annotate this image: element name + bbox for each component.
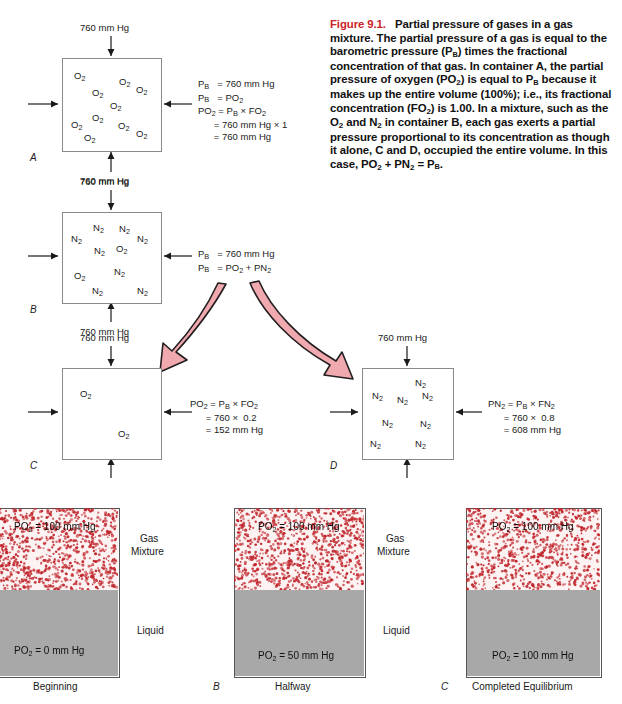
container-a-gas-label: O2 (136, 128, 147, 140)
panel-a-side-label-liquid: Liquid (137, 625, 164, 636)
container-a-gas-label: O2 (118, 120, 129, 132)
equation-line: = 608 mm Hg (488, 424, 561, 437)
panel-b-liquid-value: PO2 = 50 mm Hg (258, 650, 334, 661)
equation-line: PN2 = PB × FN2 (488, 398, 561, 412)
panel-c-gas-value: PO2 = 100 mm Hg (492, 521, 574, 532)
equation-line: PB = PO2 + PN2 (198, 262, 275, 276)
container-d-letter: D (330, 460, 337, 471)
figure-caption: Figure 9.1. Partial pressure of gases in… (330, 18, 612, 173)
container-b-gas-label: N2 (114, 266, 125, 278)
container-d-pressure-top: 760 mm Hg (378, 332, 427, 343)
panel-c-liquid-region (466, 590, 600, 676)
container-d-equations: PN2 = PB × FN2 = 760 × 0.8 = 608 mm Hg (488, 398, 561, 437)
container-c-box (62, 368, 162, 460)
container-b-gas-label: N2 (71, 233, 82, 245)
container-a-letter: A (30, 152, 37, 163)
container-d-gas-label: N2 (415, 438, 426, 450)
container-a-equations: PB = 760 mm Hg PB = PO2 PO2 = PB × FO2 =… (198, 78, 287, 144)
panel-a-liquid-region (0, 590, 118, 676)
container-d-gas-label: N2 (382, 417, 393, 429)
container-c-gas-label: O2 (118, 428, 129, 440)
pink-arrow-to-c (160, 283, 226, 372)
equation-line: = 760 mm Hg (198, 131, 287, 144)
container-b-gas-label: N2 (119, 223, 130, 235)
panel-b-side-label-gas2: Mixture (377, 546, 410, 557)
container-c-pressure-top: 760 mm Hg (80, 332, 129, 343)
equation-line: = 152 mm Hg (190, 424, 263, 437)
container-c-letter: C (30, 460, 37, 471)
container-b-gas-label: N2 (137, 285, 148, 297)
container-a-gas-label: O2 (84, 132, 95, 144)
equation-line: = 760 mm Hg × 1 (198, 119, 287, 132)
panel-c-liquid-value: PO2 = 100 mm Hg (492, 650, 574, 661)
container-b-gas-label: N2 (92, 285, 103, 297)
container-d-gas-label: N2 (370, 438, 381, 450)
container-d-gas-label: N2 (422, 390, 433, 402)
container-b-pressure-top: 760 mm Hg (80, 176, 129, 187)
figure-number: Figure 9.1. (330, 18, 386, 30)
container-b-letter: B (30, 304, 37, 315)
container-d-gas-label: N2 (415, 377, 426, 389)
container-a-gas-label: O2 (71, 119, 82, 131)
container-b-gas-label: N2 (93, 222, 104, 234)
container-b-gas-label: N2 (94, 245, 105, 257)
panel-b-letter: B (213, 681, 220, 692)
panel-a-side-label-gas: Gas (140, 533, 158, 544)
panel-c-caption: Completed Equilibrium (472, 681, 573, 692)
container-a-gas-label: O2 (110, 100, 121, 112)
panel-b-side-label-gas: Gas (386, 533, 404, 544)
panel-c-letter: C (441, 681, 448, 692)
equation-line: PO2 = PB × FO2 (198, 105, 287, 119)
container-d-gas-label: N2 (420, 418, 431, 430)
container-a-gas-label: O2 (74, 70, 85, 82)
container-c-gas-label: O2 (80, 388, 91, 400)
container-a-pressure-top: 760 mm Hg (80, 22, 129, 33)
figure-caption-body: Partial pressure of gases in a gas mixtu… (330, 18, 611, 170)
container-c-equations: PO2 = PB × FO2 = 760 × 0.2 = 152 mm Hg (190, 398, 263, 437)
equation-line: PB = 760 mm Hg (198, 78, 287, 92)
container-d-gas-label: N2 (372, 390, 383, 402)
container-a-gas-label: O2 (92, 87, 103, 99)
equation-line: = 760 × 0.8 (488, 412, 561, 425)
container-b-gas-label: O2 (74, 270, 85, 282)
container-d-gas-label: N2 (397, 394, 408, 406)
panel-a-liquid-value: PO2 = 0 mm Hg (14, 645, 84, 656)
panel-b-caption: Halfway (275, 681, 311, 692)
container-b-equations: PB = 760 mm Hg PB = PO2 + PN2 (198, 248, 275, 275)
container-a-gas-label: O2 (119, 76, 130, 88)
container-a-gas-label: O2 (136, 84, 147, 96)
equation-line: PB = PO2 (198, 92, 287, 106)
equation-line: PO2 = PB × FO2 (190, 398, 263, 412)
panel-a-caption: Beginning (33, 681, 77, 692)
container-b-gas-label: N2 (137, 233, 148, 245)
equation-line: PB = 760 mm Hg (198, 248, 275, 262)
panel-a-gas-value: PO2 = 100 mm Hg (14, 521, 96, 532)
panel-b-gas-value: PO2 = 100 mm Hg (258, 521, 340, 532)
pink-arrow-to-d (250, 281, 353, 379)
panel-b-side-label-liquid: Liquid (383, 625, 410, 636)
equation-line: = 760 × 0.2 (190, 412, 263, 425)
container-b-gas-label: O2 (116, 243, 127, 255)
container-a-gas-label: O2 (92, 112, 103, 124)
panel-a-side-label-gas2: Mixture (131, 546, 164, 557)
panel-b-liquid-region (234, 590, 364, 676)
